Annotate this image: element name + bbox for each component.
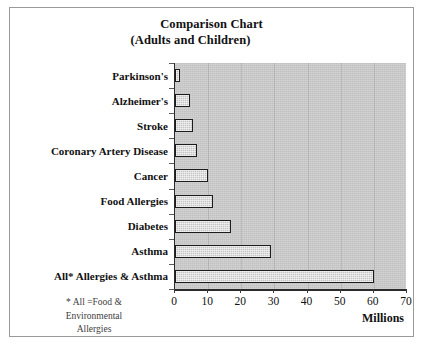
bar xyxy=(175,270,374,283)
x-axis-tick xyxy=(340,289,341,293)
x-axis-tick xyxy=(307,289,308,293)
category-label: Asthma xyxy=(16,239,173,264)
x-axis-tick-labels: 010203040506070 xyxy=(174,294,406,310)
bar-row xyxy=(175,163,406,188)
x-axis-tick-label: 40 xyxy=(301,294,313,308)
x-axis-tick xyxy=(406,289,407,293)
category-label: Parkinson's xyxy=(16,63,173,88)
footnote-line-3: Allergies xyxy=(30,323,158,337)
plot-area xyxy=(174,63,406,289)
bar-row xyxy=(175,63,406,88)
x-axis-tick xyxy=(174,289,175,293)
category-label: Cancer xyxy=(16,163,173,188)
x-axis-tick xyxy=(207,289,208,293)
footnote-line-1: * All =Food & xyxy=(30,296,158,310)
bar xyxy=(175,220,231,233)
bar xyxy=(175,195,213,208)
footnote: * All =Food & Environmental Allergies xyxy=(30,296,158,337)
category-label: Stroke xyxy=(16,113,173,138)
chart-title-line-2: (Adults and Children) xyxy=(0,32,413,48)
footnote-line-2: Environmental xyxy=(30,310,158,324)
category-axis-labels: Parkinson'sAlzheimer'sStrokeCoronary Art… xyxy=(16,63,173,289)
x-axis-tick-label: 0 xyxy=(171,294,177,308)
category-label: Coronary Artery Disease xyxy=(16,138,173,163)
bar xyxy=(175,119,193,132)
x-axis-tick xyxy=(240,289,241,293)
x-axis-tick-label: 70 xyxy=(400,294,412,308)
category-label: Food Allergies xyxy=(16,189,173,214)
bar xyxy=(175,69,180,82)
bar-row xyxy=(175,264,406,289)
bar-row xyxy=(175,88,406,113)
chart-figure: Comparison Chart (Adults and Children) P… xyxy=(9,7,414,337)
bar xyxy=(175,144,197,157)
x-axis-tick-label: 60 xyxy=(367,294,379,308)
chart-title-block: Comparison Chart (Adults and Children) xyxy=(10,16,413,48)
x-axis-tick-label: 30 xyxy=(268,294,280,308)
bar xyxy=(175,94,190,107)
bar-row xyxy=(175,239,406,264)
category-label: Diabetes xyxy=(16,214,173,239)
bar-row xyxy=(175,214,406,239)
category-label: All* Allergies & Asthma xyxy=(16,264,173,289)
bar-series xyxy=(175,63,406,289)
category-label: Alzheimer's xyxy=(16,88,173,113)
bar-row xyxy=(175,189,406,214)
x-axis-tick-label: 10 xyxy=(201,294,213,308)
x-axis-tick xyxy=(373,289,374,293)
x-axis-tick xyxy=(273,289,274,293)
bar xyxy=(175,169,208,182)
x-axis-tick-label: 20 xyxy=(235,294,247,308)
units-label: Millions xyxy=(362,311,404,325)
chart-title-line-1: Comparison Chart xyxy=(10,16,413,32)
bar xyxy=(175,245,271,258)
bar-row xyxy=(175,138,406,163)
bar-row xyxy=(175,113,406,138)
x-axis-tick-label: 50 xyxy=(334,294,346,308)
